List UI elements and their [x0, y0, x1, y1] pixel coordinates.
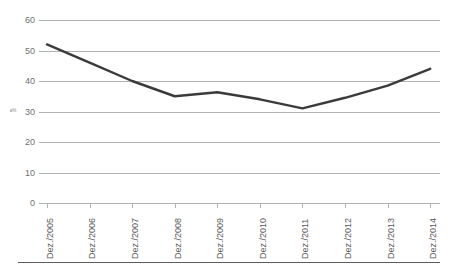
y-axis-title-group: a%	[10, 108, 17, 113]
series-line-path	[47, 44, 430, 108]
x-tick-label: Dez./2010	[258, 218, 268, 259]
plot-gridlines	[44, 21, 440, 204]
y-tick-label: 50	[25, 46, 35, 56]
x-tick-label: Dez./2013	[386, 218, 396, 259]
x-tick-label: Dez./2014	[428, 218, 438, 259]
line-chart-figure: 0102030405060 Dez./2005Dez./2006Dez./200…	[0, 0, 458, 272]
y-axis-title: a%	[10, 108, 17, 113]
x-tick-label: Dez./2009	[215, 218, 225, 259]
plot-tickmarks	[39, 21, 431, 209]
y-tick-label: 0	[30, 198, 35, 208]
x-tick-label: Dez./2007	[130, 218, 140, 259]
x-tick-label: Dez./2008	[173, 218, 183, 259]
y-tick-label: 30	[25, 107, 35, 117]
y-axis-tick-labels: 0102030405060	[25, 15, 35, 208]
y-tick-label: 10	[25, 168, 35, 178]
y-tick-label: 20	[25, 137, 35, 147]
x-tick-label: Dez./2012	[343, 218, 353, 259]
x-tick-label: Dez./2005	[45, 218, 55, 259]
x-axis-tick-labels: Dez./2005Dez./2006Dez./2007Dez./2008Dez.…	[45, 218, 438, 259]
y-tick-label: 40	[25, 76, 35, 86]
chart-canvas: 0102030405060 Dez./2005Dez./2006Dez./200…	[0, 0, 458, 272]
series-group	[47, 44, 430, 108]
x-tick-label: Dez./2011	[300, 219, 310, 259]
x-tick-label: Dez./2006	[87, 218, 97, 259]
y-tick-label: 60	[25, 15, 35, 25]
